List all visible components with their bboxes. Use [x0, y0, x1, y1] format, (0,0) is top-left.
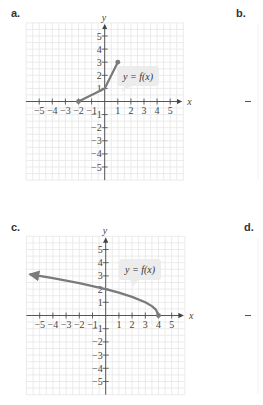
function-curve	[30, 274, 158, 315]
x-tick-label: 3	[142, 105, 147, 116]
y-tick-label: −3	[91, 135, 102, 146]
x-axis-label: x	[186, 96, 192, 107]
function-callout-pointer	[130, 280, 138, 287]
x-tick-label: 4	[155, 105, 160, 116]
y-tick-label: −4	[92, 363, 103, 374]
y-tick-label: 5	[97, 31, 102, 42]
function-callout-pointer	[121, 86, 131, 92]
y-tick-label: −1	[91, 109, 102, 120]
endpoint-dot	[156, 313, 161, 318]
x-tick-label: −4	[47, 105, 58, 116]
y-tick-label: −5	[92, 376, 103, 387]
x-tick-label: −5	[34, 105, 45, 116]
y-tick-label: −3	[92, 350, 103, 361]
y-tick-label: 4	[98, 257, 103, 268]
x-tick-label: 1	[116, 319, 121, 330]
x-tick-label: −2	[73, 105, 84, 116]
x-tick-label: −2	[74, 319, 85, 330]
x-tick-label: 2	[130, 319, 135, 330]
y-tick-label: 5	[98, 244, 103, 255]
function-callout-label: y = f(x)	[124, 264, 156, 276]
x-tick-label: 3	[143, 319, 148, 330]
y-tick-label: 3	[97, 57, 102, 68]
x-tick-label: 5	[169, 319, 174, 330]
y-tick-label: −5	[91, 162, 102, 173]
y-tick-label: −4	[91, 148, 102, 159]
graph-a: xy−5−4−3−2−112345−5−4−3−2−112345y = f(x)	[26, 12, 192, 180]
x-tick-label: 2	[128, 105, 133, 116]
function-callout-label: y = f(x)	[122, 71, 154, 83]
figure-canvas: xy−5−4−3−2−112345−5−4−3−2−112345y = f(x)…	[0, 0, 263, 405]
y-tick-label: −2	[91, 122, 102, 133]
x-tick-label: 1	[115, 105, 120, 116]
endpoint-dot	[76, 99, 81, 104]
y-tick-label: −2	[92, 336, 103, 347]
y-tick-label: 1	[98, 297, 103, 308]
y-tick-label: −1	[92, 323, 103, 334]
x-tick-label: 5	[168, 105, 173, 116]
x-axis-label: x	[188, 310, 194, 321]
y-axis-label: y	[102, 225, 108, 236]
x-tick-label: −4	[48, 319, 59, 330]
graph-d-partial	[245, 238, 258, 394]
y-tick-label: 4	[97, 44, 102, 55]
x-tick-label: −3	[61, 319, 72, 330]
x-tick-label: −5	[34, 319, 45, 330]
y-tick-label: 2	[97, 70, 102, 81]
x-tick-label: 4	[156, 319, 161, 330]
y-axis-label: y	[101, 12, 107, 23]
graph-c: xy−5−4−3−2−112345−5−4−3−2−112345y = f(x)	[27, 225, 194, 394]
x-tick-label: −3	[60, 105, 71, 116]
endpoint-dot	[115, 60, 120, 65]
graph-b-partial	[245, 24, 258, 180]
y-tick-label: 3	[98, 270, 103, 281]
